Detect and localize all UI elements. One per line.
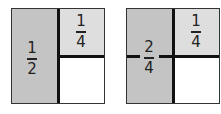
numerator: 1 bbox=[191, 14, 201, 29]
denominator: 4 bbox=[191, 35, 201, 50]
numerator: 1 bbox=[76, 14, 86, 29]
horizontal-divider bbox=[57, 55, 104, 58]
denominator: 4 bbox=[144, 61, 154, 76]
horizontal-divider-left-b bbox=[159, 55, 172, 58]
fraction-one-quarter: 1 4 bbox=[191, 14, 201, 50]
fraction-one-quarter: 1 4 bbox=[76, 14, 86, 50]
fraction-square-left: 1 2 1 4 bbox=[11, 8, 105, 104]
fraction-one-half: 1 2 bbox=[27, 41, 37, 77]
horizontal-divider-left-a bbox=[127, 55, 140, 58]
numerator: 1 bbox=[27, 41, 37, 56]
denominator: 4 bbox=[76, 35, 86, 50]
fraction-two-quarters: 2 4 bbox=[144, 40, 154, 76]
denominator: 2 bbox=[27, 62, 37, 77]
horizontal-divider-right bbox=[172, 55, 219, 58]
numerator: 2 bbox=[144, 40, 154, 55]
fraction-square-right: 2 4 1 4 bbox=[126, 8, 220, 104]
